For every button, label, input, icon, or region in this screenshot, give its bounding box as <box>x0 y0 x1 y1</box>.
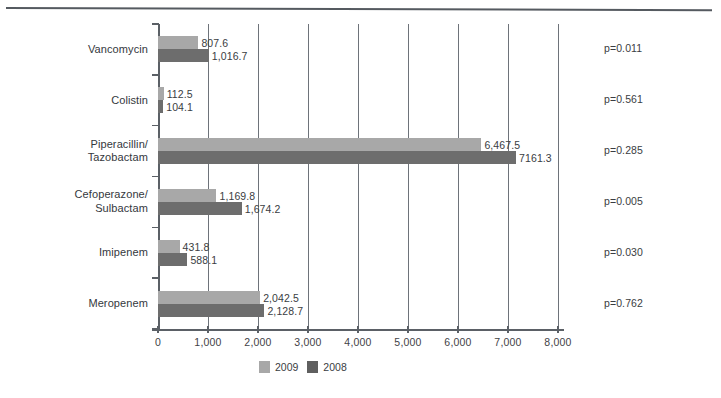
category-label-line: Cefoperazone/ <box>18 188 148 202</box>
x-axis-tick <box>207 326 208 333</box>
x-axis-tick <box>357 326 358 333</box>
p-value-label: p=0.030 <box>604 246 643 258</box>
p-value-label: p=0.005 <box>604 195 643 207</box>
gridline <box>408 24 409 329</box>
gridline <box>208 24 209 329</box>
p-value-label: p=0.762 <box>604 297 643 309</box>
bar-2008-6 <box>158 304 264 317</box>
category-label: Imipenem <box>18 246 148 260</box>
bar-value-label: 112.5 <box>167 88 193 100</box>
y-axis-tick <box>152 74 159 75</box>
bar-2009-5 <box>158 240 180 253</box>
x-axis-tick-label: 8,000 <box>528 336 588 348</box>
category-label-line: Tazobactam <box>18 151 148 165</box>
legend-label: 2009 <box>275 361 298 373</box>
category-label-line: Colistin <box>18 94 148 108</box>
gridline <box>308 24 309 329</box>
gridline <box>558 24 559 329</box>
bar-chart-figure: 01,0002,0003,0004,0005,0006,0007,0008,00… <box>0 0 721 398</box>
legend-swatch-icon <box>307 361 318 373</box>
category-label: Vancomycin <box>18 43 148 57</box>
category-label-line: Imipenem <box>18 246 148 260</box>
x-axis-tick <box>457 326 458 333</box>
bar-value-label: 2,128.7 <box>267 305 303 317</box>
category-label-line: Sulbactam <box>18 202 148 216</box>
bar-value-label: 1,169.8 <box>219 190 255 202</box>
bar-value-label: 2,042.5 <box>263 292 299 304</box>
y-axis-tick <box>152 227 159 228</box>
bar-2009-6 <box>158 291 260 304</box>
y-axis-tick <box>152 23 159 24</box>
x-axis-tick <box>257 326 258 333</box>
category-label-line: Meropenem <box>18 297 148 311</box>
legend-swatch-icon <box>259 361 270 373</box>
legend-item: 2008 <box>307 361 346 373</box>
category-label-line: Vancomycin <box>18 43 148 57</box>
y-axis-tick <box>152 176 159 177</box>
p-value-label: p=0.011 <box>604 42 642 54</box>
bar-2009-4 <box>158 189 216 202</box>
bar-value-label: 7161.3 <box>519 152 552 164</box>
y-axis-tick <box>152 277 159 278</box>
bar-2008-5 <box>158 253 187 266</box>
y-axis-tick <box>152 125 159 126</box>
gridline <box>358 24 359 329</box>
bar-2009-3 <box>158 138 481 151</box>
x-axis-tick <box>407 326 408 333</box>
x-axis-tick <box>307 326 308 333</box>
bar-value-label: 1,674.2 <box>245 203 281 215</box>
bar-value-label: 6,467.5 <box>484 139 520 151</box>
bar-value-label: 104.1 <box>166 101 193 113</box>
gridline <box>508 24 509 329</box>
bar-value-label: 588.1 <box>190 254 217 266</box>
gridline <box>258 24 259 329</box>
x-axis-tick <box>557 326 558 333</box>
category-label: Cefoperazone/Sulbactam <box>18 188 148 215</box>
y-axis-tick <box>152 328 159 329</box>
bar-value-label: 1,016.7 <box>212 50 248 62</box>
bar-2008-2 <box>158 100 163 113</box>
bar-value-label: 807.6 <box>201 37 228 49</box>
category-label: Colistin <box>18 94 148 108</box>
bar-2008-4 <box>158 202 242 215</box>
legend-label: 2008 <box>323 361 346 373</box>
bar-2008-1 <box>158 49 209 62</box>
gridline <box>458 24 459 329</box>
category-label-line: Piperacillin/ <box>18 138 148 152</box>
p-value-label: p=0.561 <box>604 93 643 105</box>
bar-value-label: 431.8 <box>183 241 210 253</box>
bar-2008-3 <box>158 151 516 164</box>
x-axis-tick <box>507 326 508 333</box>
page-top-rule <box>6 7 712 11</box>
legend-item: 2009 <box>259 361 298 373</box>
bar-2009-1 <box>158 36 198 49</box>
p-value-label: p=0.285 <box>604 144 643 156</box>
bar-2009-2 <box>158 87 164 100</box>
category-label: Meropenem <box>18 297 148 311</box>
category-label: Piperacillin/Tazobactam <box>18 138 148 165</box>
chart-legend: 20092008 <box>259 361 347 373</box>
